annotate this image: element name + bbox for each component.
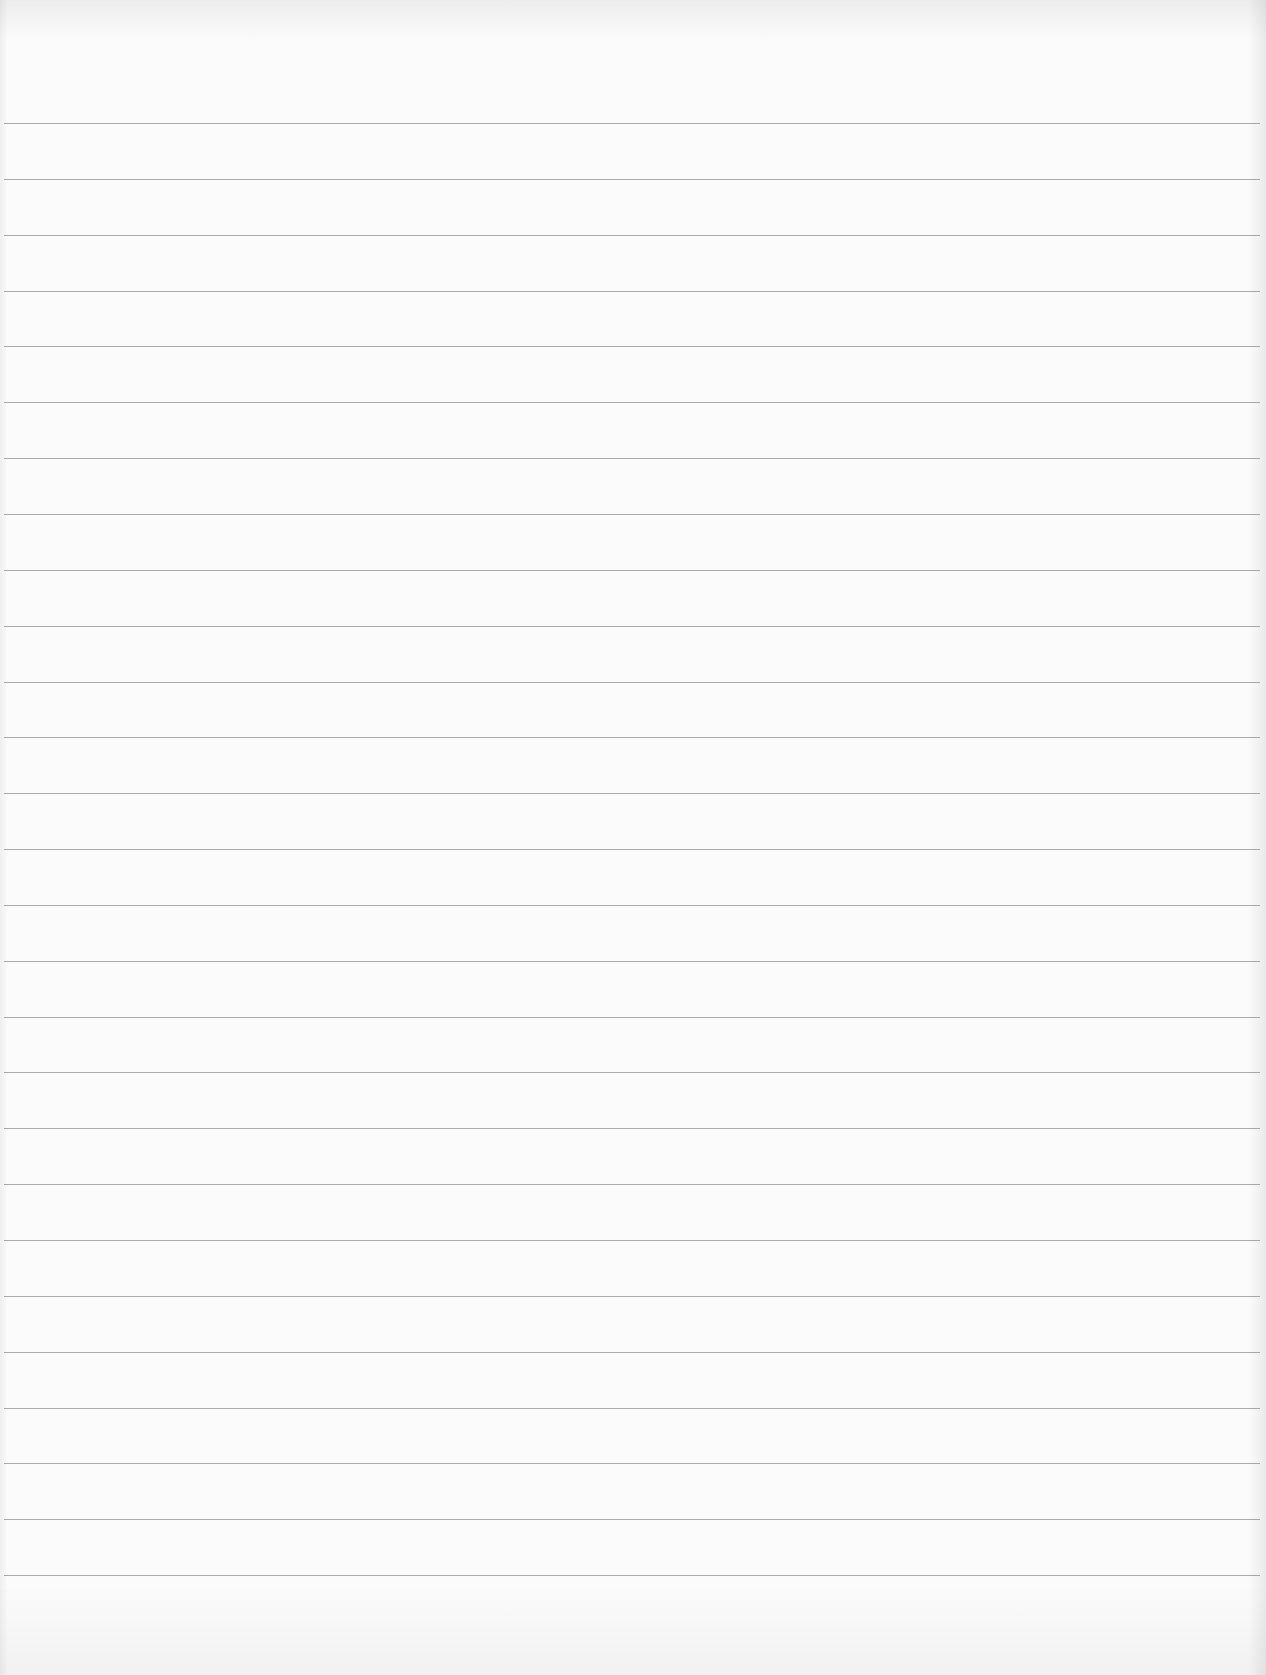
ruled-line: [4, 961, 1260, 962]
ruled-line: [4, 235, 1260, 236]
ruled-line: [4, 682, 1260, 683]
lined-paper-sheet: [0, 0, 1266, 1675]
ruled-line: [4, 179, 1260, 180]
ruled-line: [4, 849, 1260, 850]
ruled-line: [4, 905, 1260, 906]
ruled-line: [4, 346, 1260, 347]
ruled-line: [4, 1184, 1260, 1185]
ruled-line: [4, 402, 1260, 403]
ruled-line: [4, 1463, 1260, 1464]
ruled-line: [4, 737, 1260, 738]
ruled-line: [4, 514, 1260, 515]
ruled-line: [4, 1128, 1260, 1129]
ruled-line: [4, 1408, 1260, 1409]
ruled-line: [4, 1240, 1260, 1241]
ruled-line: [4, 1296, 1260, 1297]
ruled-line: [4, 1575, 1260, 1576]
ruled-line: [4, 626, 1260, 627]
ruled-line: [4, 123, 1260, 124]
ruled-line: [4, 570, 1260, 571]
ruled-line: [4, 1072, 1260, 1073]
ruled-line: [4, 291, 1260, 292]
ruled-line: [4, 458, 1260, 459]
ruled-line: [4, 1519, 1260, 1520]
ruled-line: [4, 1352, 1260, 1353]
ruled-line: [4, 793, 1260, 794]
ruled-line: [4, 1017, 1260, 1018]
